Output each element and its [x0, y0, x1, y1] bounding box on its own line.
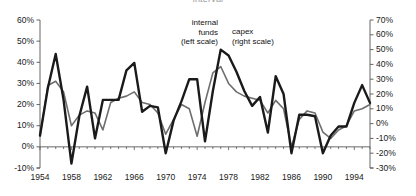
right-axis-tick-label: 20% — [376, 90, 412, 99]
left-axis-tick-label: 0% — [0, 142, 34, 151]
x-axis-tick-label: 1982 — [243, 173, 277, 182]
right-axis-tick-label: -10% — [376, 134, 412, 143]
x-axis-tick-label: 1978 — [212, 173, 246, 182]
x-axis-tick-label: 1986 — [274, 173, 308, 182]
annotation-internal-funds-line3: (left scale) — [150, 37, 218, 47]
left-axis-tick-label: 20% — [0, 100, 34, 109]
chart-container: interval 60%50%40%30%20%10%0%-10% 70%60%… — [0, 0, 416, 196]
x-axis-tick-label: 1954 — [23, 173, 57, 182]
left-axis-tick-label: 40% — [0, 58, 34, 67]
right-axis-tick-label: 30% — [376, 75, 412, 84]
left-axis-tick-label: 50% — [0, 37, 34, 46]
left-axis-tick-label: 30% — [0, 79, 34, 88]
left-axis-tick-label: 10% — [0, 121, 34, 130]
x-axis-tick-label: 1962 — [86, 173, 120, 182]
annotation-internal-funds-line1: internal — [150, 18, 218, 28]
right-axis-tick-label: 40% — [376, 60, 412, 69]
right-axis-tick-label: 70% — [376, 16, 412, 25]
right-axis-tick-label: 60% — [376, 30, 412, 39]
annotation-capex-line1: capex — [232, 27, 308, 37]
right-axis-tick-label: -30% — [376, 164, 412, 173]
left-axis-tick-label: -10% — [0, 164, 34, 173]
annotation-capex-line2: (right scale) — [232, 37, 308, 47]
annotation-internal-funds-line2: funds — [150, 28, 218, 38]
x-axis-tick-label: 1970 — [149, 173, 183, 182]
left-axis-tick-label: 60% — [0, 16, 34, 25]
x-axis-tick-label: 1990 — [306, 173, 340, 182]
x-axis-tick-label: 1994 — [337, 173, 371, 182]
right-axis-tick-label: 50% — [376, 45, 412, 54]
x-axis-tick-label: 1966 — [117, 173, 151, 182]
right-axis-tick-label: 0% — [376, 119, 412, 128]
x-axis-tick-label: 1958 — [54, 173, 88, 182]
right-axis-tick-label: -20% — [376, 149, 412, 158]
right-axis-tick-label: 10% — [376, 104, 412, 113]
annotation-internal-funds: internal funds (left scale) — [150, 18, 218, 47]
annotation-capex: capex (right scale) — [232, 27, 308, 46]
x-axis-tick-label: 1974 — [180, 173, 214, 182]
